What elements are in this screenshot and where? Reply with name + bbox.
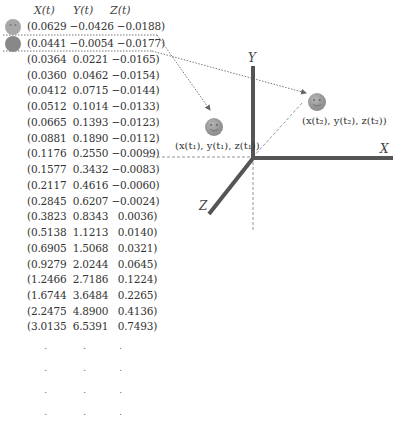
projection-lines — [147, 102, 303, 230]
point-2-label: (x(t₂), y(t₂), z(t₂)) — [302, 115, 387, 126]
z-axis — [209, 157, 254, 214]
smiley-face-icon — [205, 118, 223, 136]
smiley-face-icon — [308, 93, 326, 111]
x-axis-label: X — [380, 142, 389, 156]
diagram-graphics — [0, 0, 407, 431]
trajectory-arrows — [152, 35, 306, 110]
y-axis-label: Y — [248, 51, 256, 65]
smiley-face-icon — [5, 36, 21, 52]
z-axis-label: Z — [199, 199, 207, 213]
point-1-label: (x(t₁), y(t₁), z(t₁)) — [175, 140, 260, 151]
smiley-face-icon — [5, 19, 21, 35]
row-separator-lines — [3, 35, 157, 51]
